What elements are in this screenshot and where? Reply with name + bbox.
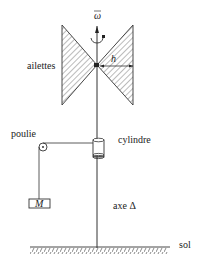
wind-turbine-diagram: ω h ailettes poulie cylindre M axe Δ sol: [0, 0, 201, 269]
left-wing: [62, 25, 97, 105]
h-label: h: [111, 53, 116, 64]
hub: [94, 63, 99, 67]
omega-label: ω: [94, 10, 101, 21]
axe-label: axe Δ: [113, 200, 136, 211]
cylinder: [93, 138, 104, 158]
cylindre-label: cylindre: [118, 134, 151, 145]
pulley-center: [42, 146, 44, 148]
ailettes-label: ailettes: [27, 60, 55, 71]
poulie-label: poulie: [11, 128, 37, 139]
ground-hatch: [30, 248, 168, 254]
sol-label: sol: [179, 239, 191, 250]
rotation-arrow-icon: [91, 26, 105, 43]
mass-label: M: [34, 198, 44, 209]
